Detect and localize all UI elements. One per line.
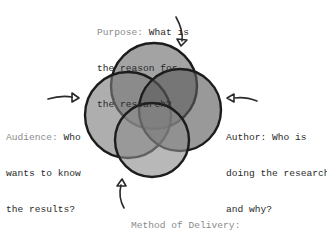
audience-line-2: wants to know bbox=[6, 168, 81, 180]
purpose-line-3: the research? bbox=[97, 99, 189, 111]
author-line-1: Author: Who is bbox=[226, 132, 327, 144]
audience-line-1: Audience: Who bbox=[6, 132, 81, 144]
audience-arrow-icon bbox=[48, 96, 72, 99]
purpose-line-1: Purpose: What is bbox=[97, 27, 189, 39]
purpose-line-1-rest: What is bbox=[143, 27, 189, 38]
audience-heading: Audience: bbox=[6, 132, 58, 143]
audience-line-1-rest: Who bbox=[58, 132, 81, 143]
purpose-heading: Purpose: bbox=[97, 27, 143, 38]
audience-label: Audience: Who wants to know the results? bbox=[6, 108, 81, 228]
author-line-1-rest: Who is bbox=[266, 132, 306, 143]
audience-arrowhead-icon bbox=[72, 93, 79, 102]
author-line-2: doing the research bbox=[226, 168, 327, 180]
method-heading: Method of Delivery: bbox=[131, 220, 240, 232]
author-arrow-icon bbox=[235, 98, 257, 101]
method-arrow-icon bbox=[120, 185, 124, 208]
author-label: Author: Who is doing the research and wh… bbox=[226, 108, 327, 228]
author-arrowhead-icon bbox=[227, 94, 234, 102]
purpose-label: Purpose: What is the reason for the rese… bbox=[97, 3, 189, 123]
author-line-3: and why? bbox=[226, 204, 327, 216]
author-heading: Author: bbox=[226, 132, 266, 143]
method-label: Method of Delivery: How will you share t… bbox=[131, 196, 240, 236]
audience-line-3: the results? bbox=[6, 204, 81, 216]
purpose-line-2: the reason for bbox=[97, 63, 189, 75]
